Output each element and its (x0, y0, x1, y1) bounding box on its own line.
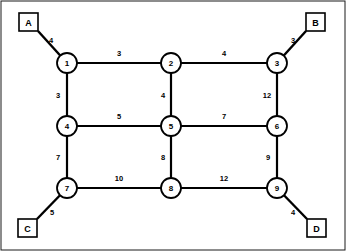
edge-weight-label: 8 (161, 153, 165, 162)
edge-weight-label: 5 (50, 208, 54, 217)
edge-weight-label: 3 (56, 91, 60, 100)
node-label: 1 (65, 59, 70, 68)
graph-node-5: 5 (161, 116, 181, 136)
graph-node-4: 4 (57, 116, 77, 136)
network-diagram-canvas: ABCD 123456789 3434125778910124354 (0, 0, 346, 251)
edge-weight-label: 5 (117, 112, 121, 121)
edge-weight-label: 3 (291, 36, 295, 45)
terminal-node-c: C (18, 219, 37, 237)
edge-weight-label: 7 (56, 153, 60, 162)
graph-node-8: 8 (161, 178, 181, 198)
edge-weight-label: 12 (220, 174, 228, 183)
graph-node-3: 3 (267, 53, 287, 73)
edge-weight-label: 7 (222, 112, 226, 121)
graph-node-7: 7 (57, 178, 77, 198)
node-label: 8 (169, 184, 174, 193)
graph-node-9: 9 (267, 178, 287, 198)
edge-weight-label: 9 (266, 153, 270, 162)
node-label: 6 (275, 122, 280, 131)
terminal-label: A (25, 18, 32, 28)
terminal-node-b: B (306, 13, 325, 31)
edge-weight-label: 10 (115, 174, 123, 183)
node-label: 4 (65, 122, 70, 131)
edge-weight-label: 4 (49, 36, 54, 45)
terminal-node-a: A (19, 13, 38, 31)
node-label: 3 (275, 59, 280, 68)
terminal-label: D (313, 224, 320, 234)
edge-weight-label: 3 (117, 49, 121, 58)
edge-weight-label: 4 (161, 91, 166, 100)
terminal-label: B (312, 18, 319, 28)
terminal-node-d: D (307, 219, 326, 237)
graph-node-6: 6 (267, 116, 287, 136)
graph-node-1: 1 (57, 53, 77, 73)
node-label: 5 (169, 122, 174, 131)
edge-weight-label: 4 (291, 208, 296, 217)
node-label: 2 (169, 59, 174, 68)
network-diagram: ABCD 123456789 3434125778910124354 (0, 0, 346, 251)
graph-node-2: 2 (161, 53, 181, 73)
edge-weight-label: 12 (263, 91, 271, 100)
edge-weight-label: 4 (222, 49, 227, 58)
node-label: 7 (65, 184, 70, 193)
terminal-label: C (24, 224, 31, 234)
node-label: 9 (275, 184, 280, 193)
